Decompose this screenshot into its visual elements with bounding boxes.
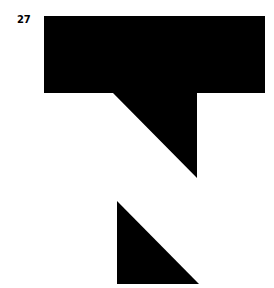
upper-shape xyxy=(44,16,265,178)
lower-triangle xyxy=(117,201,199,284)
tangram-figure xyxy=(0,0,274,288)
